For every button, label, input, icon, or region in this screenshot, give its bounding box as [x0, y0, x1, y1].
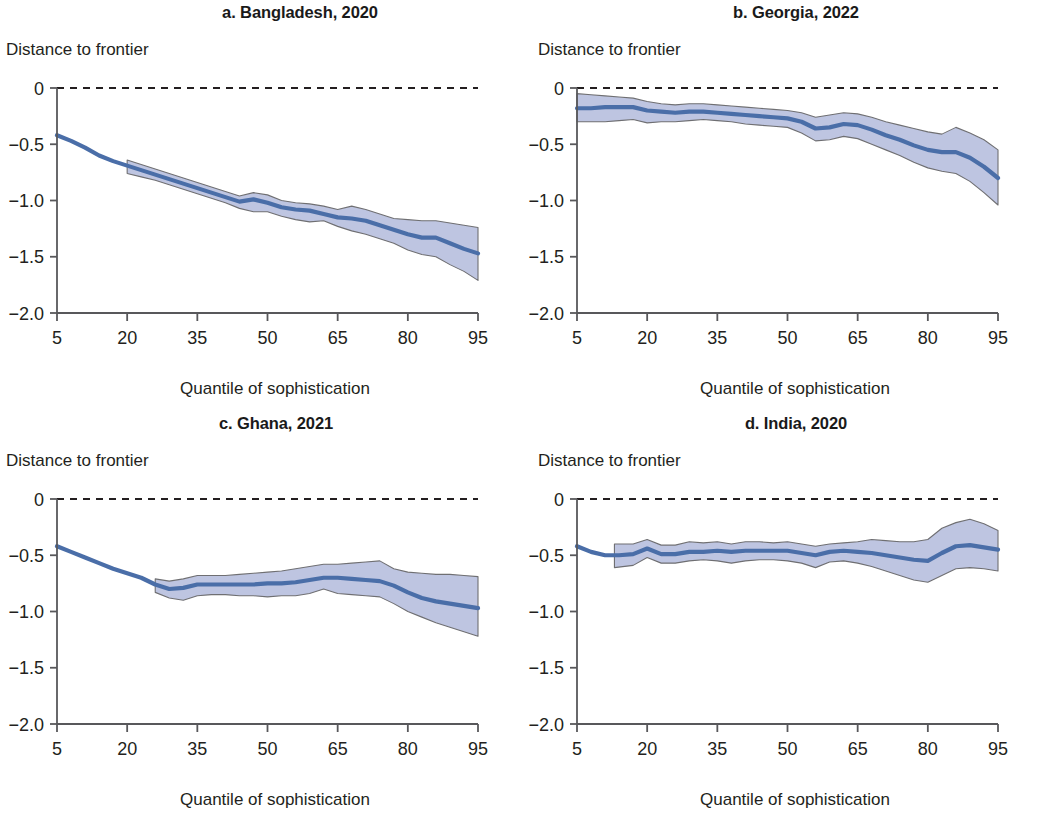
x-axis-tick-label: 95 — [468, 739, 488, 759]
x-axis-tick-label: 95 — [988, 328, 1008, 348]
y-axis-tick-label: −1.0 — [528, 602, 564, 622]
y-axis-tick-label: −0.5 — [8, 546, 44, 566]
y-axis-tick-label: −1.5 — [528, 247, 564, 267]
y-axis-tick-label: 0 — [554, 490, 564, 510]
y-axis-tick-label: −1.0 — [8, 191, 44, 211]
x-axis-tick-label: 65 — [848, 328, 868, 348]
x-axis-tick-label: 65 — [848, 739, 868, 759]
x-axis-tick-label: 80 — [918, 739, 938, 759]
x-axis-tick-label: 65 — [328, 739, 348, 759]
y-axis-tick-label: −1.0 — [528, 191, 564, 211]
x-axis-tick-label: 65 — [328, 328, 348, 348]
x-axis-tick-label: 50 — [777, 739, 797, 759]
x-axis-tick-label: 80 — [398, 328, 418, 348]
y-axis-tick-label: −2.0 — [8, 715, 44, 735]
x-axis-tick-label: 20 — [117, 739, 137, 759]
y-axis-tick-label: −0.5 — [528, 546, 564, 566]
y-axis-tick-label: 0 — [34, 79, 44, 99]
x-axis-title: Quantile of sophistication — [520, 379, 1040, 399]
plot-area-georgia: 0−0.5−1.0−1.5−2.05203550658095 — [520, 0, 1040, 411]
x-axis-title: Quantile of sophistication — [520, 790, 1040, 810]
x-axis-title: Quantile of sophistication — [0, 379, 520, 399]
y-axis-tick-label: −2.0 — [8, 304, 44, 324]
confidence-band — [614, 519, 998, 582]
x-axis-tick-label: 95 — [468, 328, 488, 348]
panel-bangladesh: a. Bangladesh, 2020 Distance to frontier… — [0, 0, 520, 411]
panel-ghana: c. Ghana, 2021 Distance to frontier 0−0.… — [0, 411, 520, 822]
x-axis-tick-label: 80 — [398, 739, 418, 759]
x-axis-tick-label: 5 — [52, 739, 62, 759]
plot-area-bangladesh: 0−0.5−1.0−1.5−2.05203550658095 — [0, 0, 520, 411]
y-axis-tick-label: −2.0 — [528, 304, 564, 324]
x-axis-title: Quantile of sophistication — [0, 790, 520, 810]
x-axis-tick-label: 50 — [257, 328, 277, 348]
x-axis-tick-label: 20 — [117, 328, 137, 348]
x-axis-tick-label: 35 — [187, 328, 207, 348]
x-axis-tick-label: 5 — [572, 328, 582, 348]
x-axis-tick-label: 80 — [918, 328, 938, 348]
x-axis-tick-label: 35 — [707, 328, 727, 348]
y-axis-tick-label: −1.5 — [528, 658, 564, 678]
y-axis-tick-label: −1.5 — [8, 247, 44, 267]
figure-panel-grid: a. Bangladesh, 2020 Distance to frontier… — [0, 0, 1040, 822]
x-axis-tick-label: 35 — [187, 739, 207, 759]
confidence-band — [127, 160, 478, 280]
y-axis-tick-label: −1.0 — [8, 602, 44, 622]
y-axis-tick-label: −1.5 — [8, 658, 44, 678]
x-axis-tick-label: 35 — [707, 739, 727, 759]
panel-india: d. India, 2020 Distance to frontier 0−0.… — [520, 411, 1040, 822]
y-axis-tick-label: 0 — [554, 79, 564, 99]
y-axis-tick-label: −0.5 — [8, 135, 44, 155]
y-axis-tick-label: −0.5 — [528, 135, 564, 155]
panel-georgia: b. Georgia, 2022 Distance to frontier 0−… — [520, 0, 1040, 411]
x-axis-tick-label: 95 — [988, 739, 1008, 759]
x-axis-tick-label: 5 — [52, 328, 62, 348]
plot-area-india: 0−0.5−1.0−1.5−2.05203550658095 — [520, 411, 1040, 822]
plot-area-ghana: 0−0.5−1.0−1.5−2.05203550658095 — [0, 411, 520, 822]
x-axis-tick-label: 20 — [637, 328, 657, 348]
x-axis-tick-label: 5 — [572, 739, 582, 759]
x-axis-tick-label: 20 — [637, 739, 657, 759]
x-axis-tick-label: 50 — [777, 328, 797, 348]
y-axis-tick-label: 0 — [34, 490, 44, 510]
y-axis-tick-label: −2.0 — [528, 715, 564, 735]
series-line — [57, 135, 478, 253]
x-axis-tick-label: 50 — [257, 739, 277, 759]
